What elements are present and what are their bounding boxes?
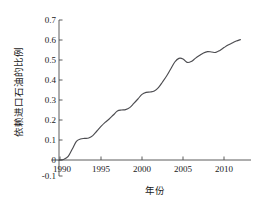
y-tick-label-3: 0.4	[45, 75, 57, 85]
x-tick-label-2010: 2010	[215, 164, 234, 174]
y-axis-title: 依赖进口石油的比例	[13, 47, 24, 137]
y-axis-ticks	[59, 20, 63, 176]
x-tick-label-2005: 2005	[174, 164, 193, 174]
y-tick-label-1: 0.6	[45, 35, 57, 45]
x-tick-label-2000: 2000	[133, 164, 152, 174]
y-tick-label-6: 0.1	[45, 135, 56, 145]
y-tick-label-5: 0.2	[45, 115, 56, 125]
x-axis-title: 年份	[145, 185, 165, 196]
y-tick-label-2: 0.5	[45, 55, 57, 65]
y-tick-label-4: 0.3	[45, 95, 57, 105]
x-tick-label-1990: 1990	[53, 164, 72, 174]
x-axis-ticks	[60, 157, 224, 161]
chart-figure: 0.7 0.6 0.5 0.4 0.3 0.2 0.1 0 -0.1 1990 …	[0, 0, 260, 206]
x-tick-label-1995: 1995	[92, 164, 111, 174]
data-line-series	[52, 40, 241, 160]
y-tick-label-0: 0.7	[45, 15, 57, 25]
line-chart: 0.7 0.6 0.5 0.4 0.3 0.2 0.1 0 -0.1 1990 …	[0, 0, 260, 206]
